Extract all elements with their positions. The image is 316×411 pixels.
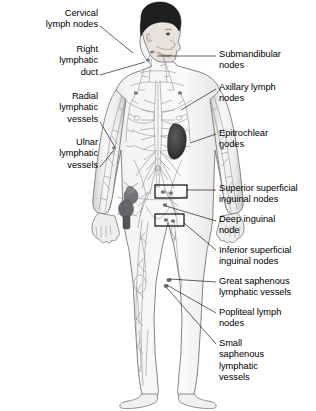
label-deep-inguinal-node: Deep inguinal node <box>219 214 314 237</box>
label-cervical-lymph-nodes: Cervical lymph nodes <box>5 8 98 31</box>
label-right-lymphatic-duct: Right lymphatic duct <box>5 44 98 78</box>
lymphatic-system-figure: Cervical lymph nodes Right lymphatic duc… <box>0 0 316 411</box>
label-epitrochlear-nodes: Epitrochlear nodes <box>219 128 314 151</box>
leader-cervical-lymph-nodes <box>100 26 133 53</box>
label-submandibular-nodes: Submandibular nodes <box>219 49 314 72</box>
feet <box>120 394 216 409</box>
label-radial-lymphatic-vessels: Radial lymphatic vessels <box>5 91 98 125</box>
label-axillary-lymph-nodes: Axillary lymph nodes <box>219 82 314 105</box>
label-great-saphenous-lymphatic-vessels: Great saphenous lymphatic vessels <box>219 276 315 299</box>
label-inferior-superficial-inguinal-nodes: Inferior superficial inguinal nodes <box>219 245 315 268</box>
label-ulnar-lymphatic-vessels: Ulnar lymphatic vessels <box>5 137 98 171</box>
label-popliteal-lymph-nodes: Popliteal lymph nodes <box>219 307 314 330</box>
label-small-saphenous-lymphatic-vessels: Small saphenous lymphatic vessels <box>219 338 314 384</box>
label-superior-superficial-inguinal-nodes: Superior superficial inguinal nodes <box>219 183 315 206</box>
